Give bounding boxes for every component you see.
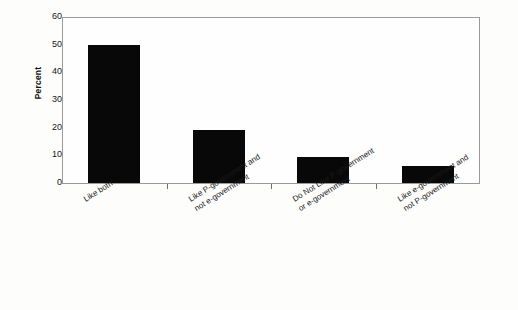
y-tick-label: 60 <box>40 12 62 21</box>
y-tick-label: 0 <box>40 178 62 187</box>
y-axis-ticks: 0102030405060 <box>30 0 62 310</box>
x-tick-mark <box>376 184 377 189</box>
bars-layer <box>62 17 480 183</box>
x-tick-mark <box>271 184 272 189</box>
bar-chart-figure: Percent 0102030405060 Like bothLike P-go… <box>0 0 518 310</box>
y-tick-label: 30 <box>40 95 62 104</box>
bar <box>88 45 140 183</box>
y-tick-label: 40 <box>40 67 62 76</box>
y-tick-label: 20 <box>40 123 62 132</box>
x-tick-mark <box>167 184 168 189</box>
y-tick-label: 10 <box>40 150 62 159</box>
y-tick-label: 50 <box>40 40 62 49</box>
